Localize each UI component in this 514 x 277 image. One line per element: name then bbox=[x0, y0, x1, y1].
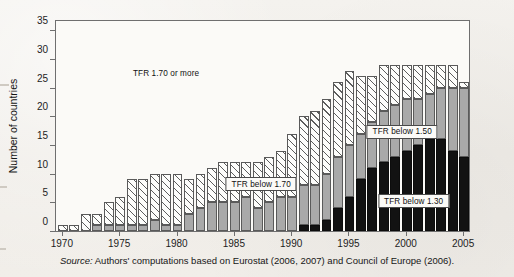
x-tick-label: 2005 bbox=[452, 238, 474, 249]
x-tick bbox=[348, 232, 349, 236]
y-axis-title-text: Number of countries bbox=[7, 79, 19, 174]
chart-annotation: TFR below 1.50 bbox=[367, 125, 438, 139]
x-tick bbox=[463, 232, 464, 236]
y-tick bbox=[50, 59, 55, 60]
x-tick-label: 2000 bbox=[395, 238, 417, 249]
x-tick-label: 1985 bbox=[223, 238, 245, 249]
y-tick bbox=[50, 145, 55, 146]
y-tick-label: 30 bbox=[37, 44, 48, 55]
x-tick bbox=[177, 232, 178, 236]
figure-stacked-bar-chart: Number of countries TFR 1.70 or moreTFR … bbox=[0, 0, 514, 277]
y-tick-label: 15 bbox=[37, 130, 48, 141]
y-tick-label: 20 bbox=[37, 101, 48, 112]
x-tick bbox=[291, 232, 292, 236]
y-tick-label: 35 bbox=[37, 15, 48, 26]
caption-source-text: Authors' computations based on Eurostat … bbox=[93, 255, 454, 266]
x-tick-label: 1980 bbox=[165, 238, 187, 249]
y-tick bbox=[50, 116, 55, 117]
chart-annotation: TFR below 1.70 bbox=[226, 177, 297, 191]
y-tick bbox=[50, 30, 55, 31]
x-tick bbox=[62, 232, 63, 236]
caption-source-label: Source: bbox=[60, 255, 93, 266]
x-tick bbox=[234, 232, 235, 236]
y-tick bbox=[50, 174, 55, 175]
figure-source-caption: Source: Authors' computations based on E… bbox=[0, 255, 514, 266]
x-tick-label: 1990 bbox=[280, 238, 302, 249]
y-tick bbox=[50, 231, 55, 232]
x-tick-label: 1975 bbox=[108, 238, 130, 249]
y-tick-label: 5 bbox=[42, 187, 48, 198]
y-tick-label: 0 bbox=[42, 216, 48, 227]
x-tick-label: 1995 bbox=[337, 238, 359, 249]
chart-annotation: TFR below 1.30 bbox=[378, 194, 449, 208]
y-tick bbox=[50, 202, 55, 203]
y-tick-label: 10 bbox=[37, 158, 48, 169]
y-axis-title: Number of countries bbox=[6, 20, 20, 232]
y-tick-label: 25 bbox=[37, 72, 48, 83]
x-tick bbox=[406, 232, 407, 236]
y-tick bbox=[50, 88, 55, 89]
x-tick-label: 1970 bbox=[51, 238, 73, 249]
chart-annotation: TFR 1.70 or more bbox=[133, 69, 199, 78]
x-tick bbox=[119, 232, 120, 236]
